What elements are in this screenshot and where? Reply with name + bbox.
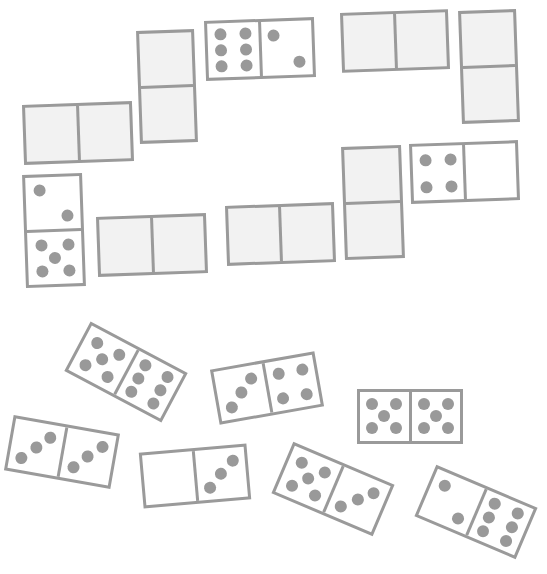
domino-half-5 xyxy=(409,392,461,441)
domino-half-blank xyxy=(346,200,402,257)
pip-icon xyxy=(271,366,285,380)
pip-icon xyxy=(390,398,402,410)
pip-icon xyxy=(235,386,249,400)
pip-icon xyxy=(89,334,105,350)
domino-half-3 xyxy=(213,364,269,422)
domino-half-5 xyxy=(27,228,83,285)
pip-icon xyxy=(215,467,228,480)
pip-icon xyxy=(49,252,61,264)
pip-icon xyxy=(418,422,430,434)
pip-icon xyxy=(419,154,431,166)
placed-domino-blank[interactable] xyxy=(96,213,208,277)
placed-domino-blank[interactable] xyxy=(458,9,520,124)
pip-icon xyxy=(240,59,252,71)
pip-icon xyxy=(442,422,454,434)
pip-icon xyxy=(444,153,456,165)
hand-domino-0-3[interactable] xyxy=(139,443,251,508)
pip-icon xyxy=(81,450,95,464)
pip-icon xyxy=(510,506,526,522)
pip-icon xyxy=(442,398,454,410)
pip-icon xyxy=(437,477,453,493)
domino-half-4 xyxy=(261,355,320,413)
domino-half-blank xyxy=(344,148,400,202)
domino-half-5 xyxy=(360,392,409,441)
domino-half-blank xyxy=(343,14,394,70)
placed-domino-4-0[interactable] xyxy=(409,140,520,204)
domino-half-2 xyxy=(258,20,313,76)
domino-half-6 xyxy=(207,22,259,78)
hand-domino-3-3[interactable] xyxy=(4,415,120,489)
domino-half-0 xyxy=(462,143,517,199)
pip-icon xyxy=(430,410,442,422)
domino-half-blank xyxy=(393,12,447,68)
pip-icon xyxy=(29,440,43,454)
pip-icon xyxy=(418,398,430,410)
pip-icon xyxy=(15,451,29,465)
pip-icon xyxy=(35,239,47,251)
pip-icon xyxy=(36,265,48,277)
pip-icon xyxy=(137,357,153,373)
pip-icon xyxy=(33,184,45,196)
domino-half-4 xyxy=(412,145,464,201)
pip-icon xyxy=(295,362,309,376)
pip-icon xyxy=(77,356,93,372)
pip-icon xyxy=(100,368,116,384)
pip-icon xyxy=(62,238,74,250)
pip-icon xyxy=(378,410,390,422)
placed-domino-blank[interactable] xyxy=(341,145,405,260)
placed-domino-blank[interactable] xyxy=(22,101,134,165)
pip-icon xyxy=(366,485,382,501)
pip-icon xyxy=(160,369,176,385)
pip-icon xyxy=(244,371,258,385)
pip-icon xyxy=(481,510,497,526)
placed-domino-blank[interactable] xyxy=(225,202,336,266)
pip-icon xyxy=(111,346,127,362)
pip-icon xyxy=(123,384,139,400)
pip-icon xyxy=(95,439,109,453)
placed-domino-2-5[interactable] xyxy=(22,173,86,288)
hand-domino-5-5[interactable] xyxy=(357,389,463,444)
pip-icon xyxy=(240,43,252,55)
pip-icon xyxy=(276,391,290,405)
pip-icon xyxy=(294,55,306,67)
pip-icon xyxy=(226,454,239,467)
placed-domino-blank[interactable] xyxy=(136,29,198,144)
pip-icon xyxy=(499,533,515,549)
domino-half-blank xyxy=(461,12,515,66)
placed-domino-blank[interactable] xyxy=(340,9,450,73)
hand-domino-5-3[interactable] xyxy=(271,442,394,537)
domino-half-blank xyxy=(150,216,205,272)
pip-icon xyxy=(300,387,314,401)
domino-half-blank xyxy=(76,104,131,160)
hand-domino-5-6[interactable] xyxy=(64,321,187,422)
pip-icon xyxy=(44,430,58,444)
domino-half-3 xyxy=(7,419,64,477)
domino-half-blank xyxy=(25,106,77,162)
pip-icon xyxy=(420,181,432,193)
pip-icon xyxy=(284,477,300,493)
pip-icon xyxy=(94,351,110,367)
pip-icon xyxy=(63,264,75,276)
pip-icon xyxy=(214,28,226,40)
pip-icon xyxy=(307,487,323,503)
domino-half-3 xyxy=(56,427,116,485)
pip-icon xyxy=(239,27,251,39)
placed-domino-6-2[interactable] xyxy=(204,17,316,81)
pip-icon xyxy=(445,180,457,192)
pip-icon xyxy=(366,422,378,434)
domino-half-blank xyxy=(228,207,280,263)
domino-half-blank xyxy=(463,64,517,121)
hand-domino-3-4[interactable] xyxy=(210,351,324,425)
hand-domino-2-6[interactable] xyxy=(414,465,537,560)
pip-icon xyxy=(153,382,169,398)
pip-icon xyxy=(366,398,378,410)
pip-icon xyxy=(487,496,503,512)
domino-half-blank xyxy=(278,205,333,261)
pip-icon xyxy=(333,498,349,514)
domino-half-blank xyxy=(141,84,195,141)
domino-half-blank xyxy=(139,32,193,86)
pip-icon xyxy=(294,454,310,470)
pip-icon xyxy=(301,471,317,487)
pip-icon xyxy=(61,209,73,221)
pip-icon xyxy=(214,44,226,56)
